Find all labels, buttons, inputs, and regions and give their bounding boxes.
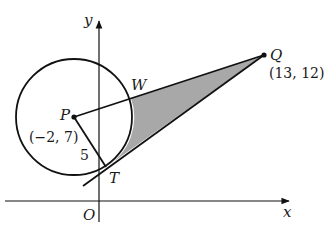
x-axis-label: x bbox=[283, 205, 291, 220]
origin-label: O bbox=[83, 208, 95, 223]
point-W-label: W bbox=[131, 78, 146, 93]
tangent-line-QT bbox=[83, 55, 264, 186]
point-T-label: T bbox=[109, 171, 119, 186]
radius-length-label: 5 bbox=[80, 148, 89, 162]
point-P-dot bbox=[71, 114, 76, 119]
y-axis-label: y bbox=[84, 13, 92, 28]
coordinate-diagram bbox=[0, 0, 326, 234]
point-P-label: P bbox=[60, 108, 70, 123]
point-Q-label: Q bbox=[270, 48, 282, 63]
point-P-coords: (−2, 7) bbox=[29, 130, 78, 144]
radius-PT bbox=[74, 117, 106, 167]
point-Q-coords: (13, 12) bbox=[269, 66, 324, 80]
point-Q-dot bbox=[261, 52, 266, 57]
